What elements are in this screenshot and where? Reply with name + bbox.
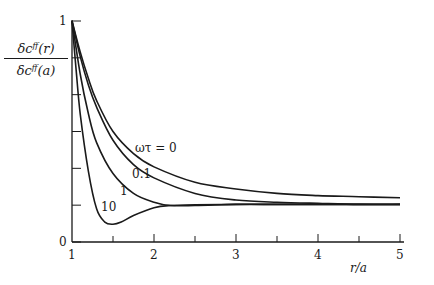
x-tick-label: 4 <box>314 248 322 262</box>
x-axis-label: r/a <box>350 261 367 275</box>
x-tick-labels: 12345 <box>68 248 404 262</box>
y-tick-label-0: 0 <box>59 235 67 249</box>
x-tick-label: 5 <box>396 248 404 262</box>
curve-label-omega-tau-0.1: 0.1 <box>132 167 151 181</box>
chart-plot: 1 0 12345 r/a ωτ = 0 0.1 1 10 <box>0 0 434 285</box>
x-tick-label: 2 <box>150 248 158 262</box>
x-ticks <box>113 234 400 242</box>
curve-ωτ=1 <box>72 21 400 206</box>
curve-label-omega-tau-0: ωτ = 0 <box>135 141 177 155</box>
curve-ωτ=0.1 <box>72 21 400 204</box>
x-tick-label: 1 <box>68 248 76 262</box>
x-tick-label: 3 <box>232 248 240 262</box>
y-tick-label-1: 1 <box>59 14 67 28</box>
curve-label-omega-tau-1: 1 <box>120 184 128 198</box>
curve-label-omega-tau-10: 10 <box>101 200 116 214</box>
curve-ωτ=0 <box>72 21 400 198</box>
